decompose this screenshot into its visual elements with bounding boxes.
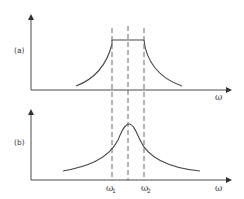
omega1-tick-label: ω 1 <box>106 183 116 194</box>
x-axis-b-label: ω <box>215 183 222 193</box>
curve-a <box>76 40 182 86</box>
reference-lines <box>112 26 144 180</box>
svg-text:1: 1 <box>112 187 116 194</box>
panel-a-label: (a) <box>14 46 25 55</box>
panel-b-label: (b) <box>14 138 25 147</box>
panel-a: (a) ω <box>14 17 229 102</box>
svg-text:2: 2 <box>147 187 151 194</box>
spectrum-diagram: (a) ω (b) ω ω 1 ω 2 <box>0 0 244 199</box>
omega2-tick-label: ω 2 <box>141 183 151 194</box>
panel-b: (b) ω ω 1 ω 2 <box>14 112 229 194</box>
x-axis-a-label: ω <box>215 92 222 102</box>
curve-b <box>63 124 200 171</box>
